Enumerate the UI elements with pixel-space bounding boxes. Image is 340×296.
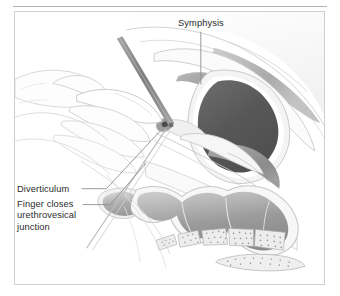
- coccyx: [216, 254, 305, 271]
- figure-page: Symphysis Diverticulum Finger closesuret…: [0, 0, 340, 296]
- label-finger-line-3: junction: [17, 222, 50, 232]
- label-finger-line-1: Finger closes: [17, 199, 74, 209]
- sacrum-vertebrae: [156, 228, 285, 250]
- anatomical-illustration: [15, 12, 324, 284]
- label-symphysis: Symphysis: [178, 18, 224, 29]
- vertebra-segment: [254, 229, 285, 250]
- label-diverticulum: Diverticulum: [17, 184, 69, 195]
- examining-hand: [15, 70, 162, 175]
- figure-frame: [14, 11, 325, 285]
- vertebra-segment: [229, 228, 254, 246]
- label-finger-line-2: urethrovesical: [17, 210, 76, 220]
- vertebra-segment: [202, 228, 228, 245]
- top-horizontal-rule: [13, 6, 327, 7]
- label-finger-closes-urethrovesical-junction: Finger closesurethrovesicaljunction: [17, 199, 76, 233]
